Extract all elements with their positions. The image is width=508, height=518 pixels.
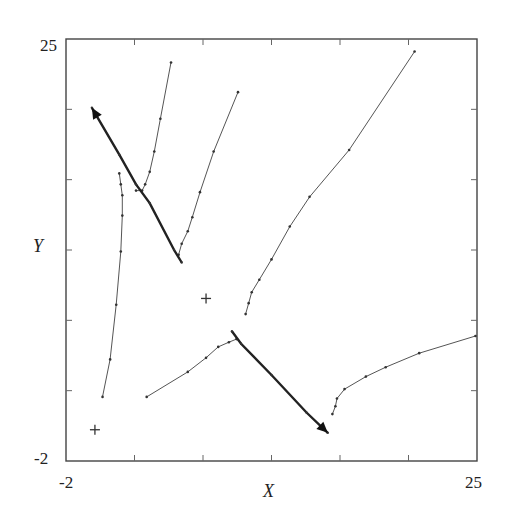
data-point	[305, 411, 307, 413]
y-axis-title: Y	[33, 236, 45, 256]
upper-thick-trajectory	[91, 107, 183, 264]
plus-marker	[90, 425, 100, 435]
data-point	[308, 196, 311, 199]
data-point	[217, 346, 220, 349]
plus-markers	[90, 293, 211, 434]
chart: 25 -2 -2 25 X Y	[0, 0, 508, 518]
lower-thick-trajectory-line	[232, 331, 328, 433]
data-point	[244, 313, 247, 316]
data-point	[418, 352, 421, 355]
data-point	[384, 366, 387, 369]
data-point	[144, 183, 147, 186]
data-point	[343, 388, 346, 391]
data-point	[199, 191, 202, 194]
curve-a	[135, 61, 173, 192]
data-point	[237, 91, 240, 94]
data-point	[153, 150, 156, 153]
data-point	[212, 150, 215, 153]
data-point	[121, 214, 124, 217]
data-point	[186, 230, 189, 233]
data-point	[121, 194, 124, 197]
y-tick-label-min: -2	[34, 449, 48, 468]
data-point	[180, 242, 183, 245]
data-point	[258, 278, 261, 281]
data-point	[228, 341, 231, 344]
data-point	[135, 189, 138, 192]
data-point	[247, 302, 250, 305]
plot-frame	[66, 39, 477, 461]
data-point	[120, 250, 123, 253]
data-point	[336, 397, 339, 400]
curve-f-line	[332, 336, 475, 414]
data-point	[331, 413, 334, 416]
data-point	[145, 396, 148, 399]
data-point	[348, 149, 351, 152]
thick-trajectories	[91, 107, 329, 434]
data-point	[159, 117, 162, 120]
data-point	[270, 258, 273, 261]
x-tick-label-max: 25	[465, 473, 482, 492]
data-point	[334, 405, 337, 408]
curve-e-line	[246, 52, 415, 315]
curve-c-line	[103, 173, 123, 397]
data-point	[170, 61, 173, 64]
data-point	[250, 291, 253, 294]
curve-d-line	[147, 339, 237, 397]
data-point	[149, 202, 151, 204]
data-point	[365, 375, 368, 378]
data-point	[173, 249, 175, 251]
data-point	[231, 330, 233, 332]
curves	[101, 50, 477, 415]
data-point	[240, 343, 242, 345]
data-point	[288, 225, 291, 228]
lower-thick-trajectory	[231, 330, 329, 434]
data-point	[109, 358, 112, 361]
data-point	[120, 183, 123, 186]
data-point	[115, 303, 118, 306]
curve-d	[145, 338, 237, 398]
curve-a-line	[136, 62, 171, 190]
plus-marker	[201, 293, 211, 303]
data-point	[191, 216, 194, 219]
data-point	[101, 396, 104, 399]
curve-b	[177, 91, 239, 256]
data-point	[135, 183, 137, 185]
data-point	[186, 371, 189, 374]
data-point	[413, 50, 416, 53]
data-point	[148, 171, 151, 174]
curve-f	[331, 335, 477, 416]
y-tick-label-max: 25	[40, 36, 57, 55]
curve-e	[244, 50, 416, 315]
curve-c	[101, 172, 123, 398]
data-point	[180, 261, 182, 263]
data-point	[205, 357, 208, 360]
data-point	[474, 335, 477, 338]
data-point	[118, 153, 120, 155]
ticks	[66, 39, 477, 461]
x-tick-label-min: -2	[59, 473, 73, 492]
data-point	[118, 172, 121, 175]
data-point	[270, 374, 272, 376]
x-axis-title: X	[262, 481, 275, 501]
